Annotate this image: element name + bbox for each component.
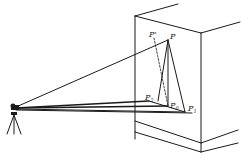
line-P-to-P2 bbox=[158, 40, 168, 101]
sight-lines bbox=[16, 40, 192, 113]
tripod-leg-left bbox=[7, 115, 14, 134]
base-line-lower-side bbox=[201, 143, 238, 152]
label-P-prime: P' bbox=[148, 30, 157, 39]
point-labels: P P' P2 P0 P1 bbox=[144, 30, 197, 114]
label-P2: P2 bbox=[144, 93, 154, 103]
roof-left-edge bbox=[135, 4, 178, 16]
line-Pprime-to-P0 bbox=[154, 38, 168, 106]
base-line-upper-front bbox=[135, 121, 201, 143]
tripod-leg-right bbox=[14, 115, 21, 134]
label-P0: P0 bbox=[169, 101, 179, 111]
projection-triangle bbox=[149, 38, 185, 112]
theodolite-icon bbox=[7, 104, 21, 135]
label-P1: P1 bbox=[187, 104, 197, 114]
wall-top-edge bbox=[135, 16, 201, 33]
side-top-edge bbox=[201, 22, 240, 33]
building bbox=[135, 4, 240, 152]
base-line-upper-side bbox=[201, 130, 238, 143]
label-P: P bbox=[169, 32, 176, 41]
surveying-diagram: P P' P2 P0 P1 bbox=[0, 0, 249, 160]
base-line-lower-front bbox=[135, 132, 201, 152]
